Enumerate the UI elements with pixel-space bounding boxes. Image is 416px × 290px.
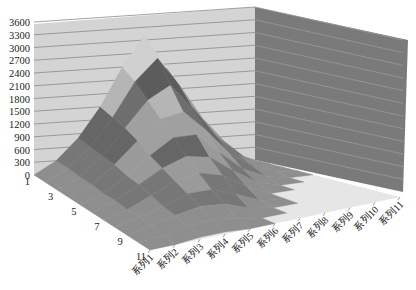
x-tick-label: 系列11 xyxy=(376,198,405,227)
y-tick-label: 1800 xyxy=(9,94,30,105)
y-tick-label: 3300 xyxy=(9,30,30,41)
depth-tick-label: 7 xyxy=(94,221,99,232)
y-tick-label: 3000 xyxy=(9,43,30,54)
depth-tick-label: 9 xyxy=(118,236,123,247)
y-tick-label: 300 xyxy=(14,157,30,168)
surface-chart: 0300600900120015001800210024002700300033… xyxy=(0,0,416,290)
x-tick-label: 系列2 xyxy=(154,246,180,272)
y-tick-label: 3600 xyxy=(9,17,30,28)
depth-tick-label: 5 xyxy=(71,206,76,217)
y-tick-label: 900 xyxy=(14,132,30,143)
y-tick-label: 600 xyxy=(14,145,30,156)
y-tick-label: 2100 xyxy=(9,81,30,92)
y-tick-label: 1500 xyxy=(9,106,30,117)
y-tick-label: 2700 xyxy=(9,55,30,66)
x-tick-label: 系列7 xyxy=(279,219,305,245)
y-axis-ticks: 0300600900120015001800210024002700300033… xyxy=(9,17,30,181)
x-tick-label: 系列3 xyxy=(179,240,205,266)
x-tick-label: 系列6 xyxy=(254,224,280,250)
x-tick-label: 系列9 xyxy=(329,209,355,235)
x-tick-label: 系列4 xyxy=(204,235,230,261)
y-tick-label: 2400 xyxy=(9,68,30,79)
x-tick-label: 系列8 xyxy=(304,214,330,240)
y-tick-label: 1200 xyxy=(9,119,30,130)
depth-tick-label: 3 xyxy=(48,191,53,202)
depth-tick-label: 1 xyxy=(25,176,30,187)
x-tick-label: 系列5 xyxy=(229,230,255,256)
x-tick-label: 系列10 xyxy=(351,203,381,233)
